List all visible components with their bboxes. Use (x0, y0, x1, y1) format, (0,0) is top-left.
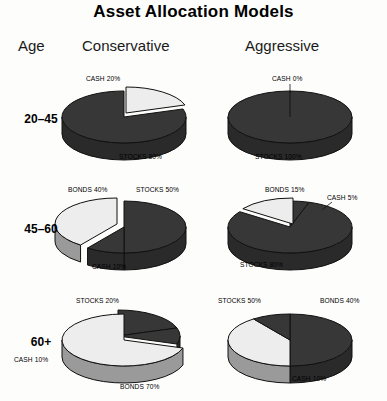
wedge-label-bonds-40: BONDS 40% (320, 296, 359, 305)
wedge-label-stocks-20: STOCKS 20% (76, 296, 119, 305)
age-label-45-60: 45–60 (8, 222, 74, 236)
wedge-label-stocks-80: STOCKS 80% (119, 152, 162, 161)
pie-slice-stocks (228, 91, 352, 160)
wedge-label-cash-10: CASH 10% (92, 262, 126, 271)
wedge-label-bonds-40: BONDS 40% (68, 185, 107, 194)
age-label-60+: 60+ (8, 335, 74, 349)
wedge-label-bonds-70: BONDS 70% (120, 382, 159, 391)
pie-slice-cash (126, 87, 185, 113)
pie-chart-60+-aggressive (208, 302, 372, 395)
column-header-age: Age (18, 37, 45, 54)
column-header-aggressive: Aggressive (245, 37, 319, 54)
column-header-conservative: Conservative (82, 37, 170, 54)
wedge-label-cash-0: CASH 0% (272, 74, 302, 83)
wedge-label-cash-20: CASH 20% (86, 74, 120, 83)
wedge-label-stocks-100: STOCKS 100% (255, 152, 302, 161)
wedge-label-cash-5: CASH 5% (327, 193, 357, 202)
wedge-label-stocks-80: STOCKS 80% (240, 260, 283, 269)
wedge-label-stocks-50: STOCKS 50% (136, 185, 179, 194)
page-title: Asset Allocation Models (0, 2, 387, 22)
wedge-label-stocks-50: STOCKS 50% (218, 296, 261, 305)
wedge-label-cash-10: CASH 10% (14, 355, 48, 364)
wedge-label-cash-10: CASH 10% (292, 374, 326, 383)
asset-allocation-figure: Asset Allocation Models Age Conservative… (0, 0, 387, 401)
pie-chart-4560-aggressive (208, 189, 372, 282)
wedge-label-bonds-15: BONDS 15% (265, 185, 304, 194)
age-label-20-45: 20–45 (8, 112, 74, 126)
